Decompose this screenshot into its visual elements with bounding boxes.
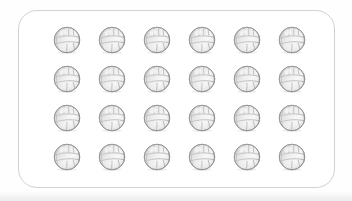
volleyball-item [277, 64, 307, 94]
rounded-panel [18, 10, 335, 188]
volleyball-item [97, 142, 127, 172]
volleyball-item [52, 64, 82, 94]
volleyball-item [277, 103, 307, 133]
volleyball-item [187, 103, 217, 133]
volleyball-item [142, 142, 172, 172]
volleyball-item [187, 142, 217, 172]
volleyball-item [97, 64, 127, 94]
volleyball-item [232, 103, 262, 133]
volleyball-item [187, 64, 217, 94]
volleyball-item [97, 25, 127, 55]
volleyball-item [142, 25, 172, 55]
volleyball-item [277, 25, 307, 55]
volleyball-item [277, 142, 307, 172]
bottom-shading-band [0, 192, 352, 201]
volleyball-item [142, 103, 172, 133]
volleyball-item [142, 64, 172, 94]
volleyball-item [187, 25, 217, 55]
volleyball-item [52, 103, 82, 133]
volleyball-item [232, 142, 262, 172]
volleyball-item [232, 64, 262, 94]
volleyball-item [232, 25, 262, 55]
canvas [0, 0, 352, 201]
volleyball-item [52, 142, 82, 172]
volleyball-item [97, 103, 127, 133]
volleyball-item [52, 25, 82, 55]
volleyball-grid [19, 11, 336, 189]
